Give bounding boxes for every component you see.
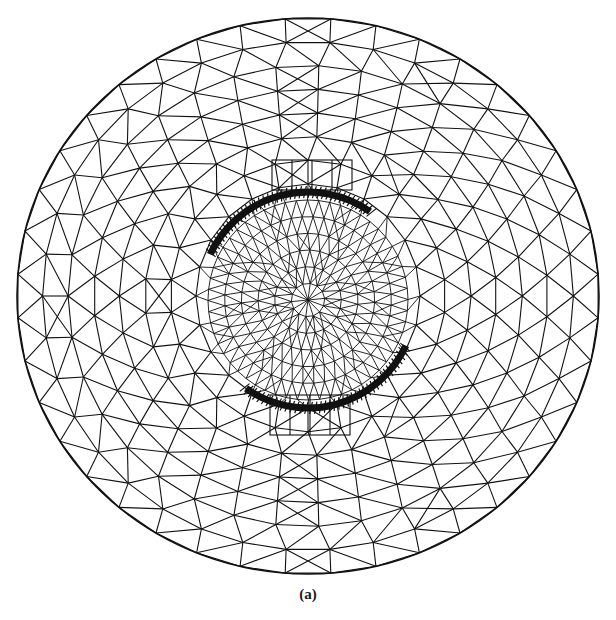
outer-mesh bbox=[18, 19, 598, 573]
outer-boundary bbox=[17, 18, 599, 574]
figure-caption: (a) bbox=[0, 586, 616, 603]
finite-element-mesh bbox=[0, 0, 616, 620]
